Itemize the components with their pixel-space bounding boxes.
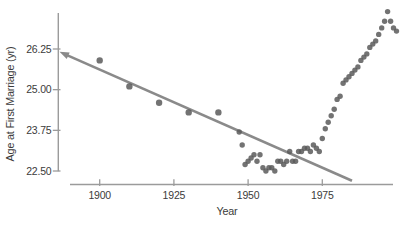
x-axis-label: Year (216, 205, 238, 217)
data-points (97, 9, 400, 174)
data-point (388, 19, 393, 24)
data-point (97, 57, 103, 63)
data-point (257, 152, 262, 157)
data-point (215, 109, 221, 115)
y-axis-label: Age at First Marriage (yr) (4, 47, 16, 162)
data-point (373, 38, 378, 43)
data-point (254, 159, 259, 164)
data-point (326, 120, 331, 125)
data-point (385, 9, 390, 14)
y-axis-ticks: 26.2525.0023.7522.50 (26, 43, 60, 177)
data-point (317, 149, 322, 154)
y-tick-label: 22.50 (26, 165, 52, 177)
data-point (272, 168, 277, 173)
data-point (355, 64, 360, 69)
data-point (394, 28, 399, 33)
data-point (240, 142, 245, 147)
y-tick-label: 25.00 (26, 83, 52, 95)
data-point (293, 159, 298, 164)
data-point (323, 126, 328, 131)
figure: 1900192519501975 26.2525.0023.7522.50 Ag… (0, 0, 409, 232)
data-point (287, 149, 292, 154)
data-point (284, 159, 289, 164)
data-point (251, 152, 256, 157)
x-axis-ticks: 1900192519501975 (88, 179, 334, 201)
data-point (376, 32, 381, 37)
data-point (337, 94, 342, 99)
data-point (156, 100, 162, 106)
y-tick-label: 26.25 (26, 43, 52, 55)
x-tick-label: 1975 (311, 189, 334, 201)
axes (58, 13, 393, 185)
trend-line-group (60, 52, 352, 181)
scatter-chart: 1900192519501975 26.2525.0023.7522.50 Ag… (0, 0, 409, 232)
x-tick-label: 1900 (88, 189, 111, 201)
x-tick-label: 1925 (163, 189, 186, 201)
data-point (364, 51, 369, 56)
trend-arrowhead-icon (60, 52, 70, 59)
data-point (379, 25, 384, 30)
y-tick-label: 23.75 (26, 124, 52, 136)
data-point (382, 19, 387, 24)
trend-line (64, 54, 352, 181)
data-point (320, 136, 325, 141)
data-point (126, 83, 132, 89)
data-point (332, 107, 337, 112)
data-point (186, 109, 192, 115)
data-point (329, 113, 334, 118)
x-tick-label: 1950 (237, 189, 260, 201)
data-point (237, 129, 242, 134)
data-point (308, 149, 313, 154)
